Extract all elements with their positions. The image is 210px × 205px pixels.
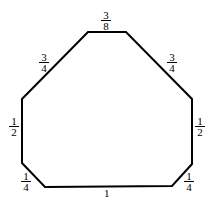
numerator: 1 (183, 171, 195, 181)
denominator: 4 (38, 63, 50, 73)
denominator: 2 (194, 127, 206, 137)
label-top: 38 (100, 10, 112, 31)
denominator: 8 (100, 21, 112, 31)
denominator: 4 (183, 182, 195, 192)
label-right: 12 (194, 116, 206, 137)
numerator: 3 (166, 52, 178, 62)
label-lower-left: 14 (20, 171, 32, 192)
numerator: 1 (20, 171, 32, 181)
numerator: 3 (100, 10, 112, 20)
denominator: 4 (20, 182, 32, 192)
numerator: 3 (38, 52, 50, 62)
denominator: 2 (8, 127, 20, 137)
label-left: 12 (8, 116, 20, 137)
label-upper-left: 34 (38, 52, 50, 73)
numerator: 1 (8, 116, 20, 126)
denominator: 4 (166, 63, 178, 73)
numerator: 1 (194, 116, 206, 126)
label-upper-right: 34 (166, 52, 178, 73)
label-bottom: 1 (104, 187, 110, 199)
label-lower-right: 14 (183, 171, 195, 192)
